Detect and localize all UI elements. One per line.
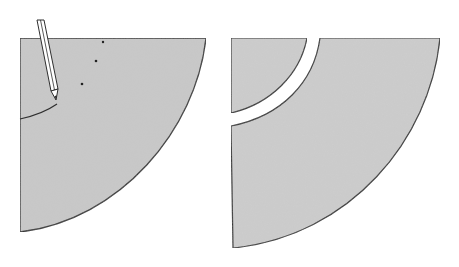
diagram-stage: [0, 0, 459, 267]
diagram-canvas: [0, 0, 459, 267]
dot: [95, 60, 98, 63]
dot: [81, 83, 84, 86]
right-panel: [231, 38, 440, 248]
dot: [102, 41, 104, 43]
left-panel: [20, 20, 206, 232]
